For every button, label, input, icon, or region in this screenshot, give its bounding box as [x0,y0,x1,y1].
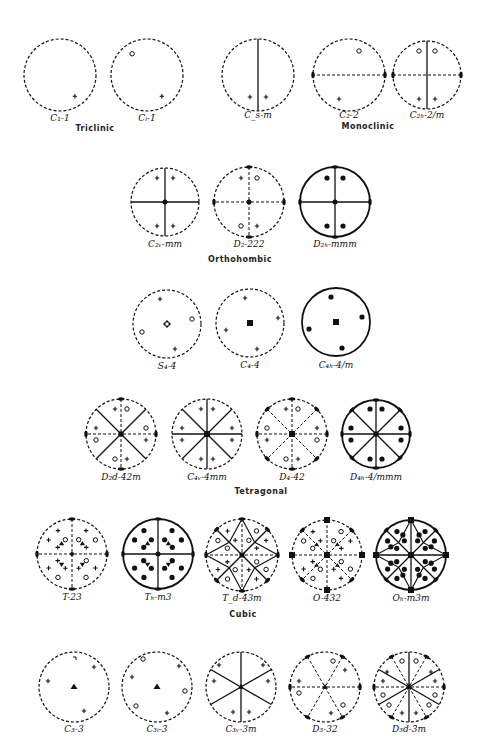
plus-pole-icon [94,426,98,430]
filled-circle-pole-icon [132,565,137,570]
filled-circle-pole-icon [415,538,420,543]
fourfold-axis-icon [119,432,124,437]
filled-circle-pole-icon [306,326,311,331]
plus-pole-icon [339,576,343,580]
plus-pole-icon [417,97,421,101]
filled-circle-pole-icon [417,573,422,578]
filled-circle-pole-icon [170,545,175,550]
twofold-axis-icon [212,199,215,205]
fourbar-axis-inner [166,323,169,326]
center-axis-icon [156,552,161,557]
threefold-axis-icon [59,541,64,545]
filled-circle-pole-icon [402,567,407,572]
plus-pole-icon [92,665,96,669]
open-circle-pole-icon [254,529,258,533]
threefold-axis-icon [322,684,328,689]
stereogram-d2d [84,397,157,470]
twofold-axis-icon [84,431,87,437]
fourfold-axis-icon [204,431,210,437]
plus-pole-icon [339,546,343,550]
filled-circle-pole-icon [348,425,353,430]
open-circle-pole-icon [144,426,148,430]
fourfold-axis-icon [333,319,339,325]
filled-circle-pole-icon [423,559,428,564]
group-label-oh: Oₕ-m3m [392,593,429,603]
twofold-axis-icon [105,551,108,557]
plus-pole-icon [301,567,305,571]
open-circle-pole-icon [381,693,385,697]
open-circle-pole-icon [84,575,88,579]
open-circle-pole-icon [400,659,404,663]
plus-pole-icon [113,407,117,411]
threefold-axis-icon [145,563,150,567]
open-circle-pole-icon [63,538,67,542]
open-circle-pole-icon [265,426,269,430]
fourfold-axis-icon [247,320,253,326]
stereogram-d4h [340,398,411,469]
open-circle-pole-icon [239,224,243,228]
open-circle-pole-icon [311,576,315,580]
plus-pole-icon [414,711,418,715]
threefold-axis-icon [80,541,85,545]
plus-pole-icon [331,567,335,571]
plus-pole-icon [158,297,162,301]
open-circle-pole-icon [93,538,97,542]
plus-pole-icon [155,224,159,228]
filled-circle-pole-icon [394,546,399,551]
twofold-axis-icon [191,551,194,557]
group-label-d3: D₃-32 [312,724,337,734]
twofold-axis-icon [388,654,395,660]
fourfold-axis-icon [373,552,379,558]
twofold-axis-icon [373,466,379,469]
twofold-axis-icon [282,199,285,205]
open-circle-pole-icon [140,330,144,334]
group-label-c4v: C₄ᵥ-4mm [187,472,227,482]
open-circle-pole-icon [417,49,421,53]
filled-circle-pole-icon [385,538,390,543]
system-label-orthorhombic: Orthohombic [208,255,272,264]
filled-circle-pole-icon [379,406,384,411]
plus-pole-icon [46,566,50,570]
plus-pole-icon [233,538,237,542]
fourfold-axis-icon [408,552,414,558]
plus-pole-icon [155,176,159,180]
plus-pole-icon [231,710,235,714]
plus-pole-icon [171,224,175,228]
open-circle-pole-icon [94,438,98,442]
twofold-axis-icon [304,654,311,660]
stereogram-oh [373,517,449,593]
plus-pole-icon [56,545,60,549]
filled-circle-pole-icon [149,566,154,571]
filled-circle-pole-icon [398,437,403,442]
plus-pole-icon [329,711,333,715]
stereogram-t [35,517,108,590]
open-circle-pole-icon [296,407,300,411]
open-circle-pole-icon [225,546,229,550]
filled-circle-pole-icon [162,537,167,542]
twofold-axis-icon [408,431,411,437]
plus-pole-icon [247,567,251,571]
open-circle-pole-icon [341,703,345,707]
open-circle-pole-icon [318,567,322,571]
twofold-axis-icon [69,587,75,590]
plus-pole-icon [266,679,270,683]
threefold-axis-icon [154,684,161,690]
stereogram-o [289,517,365,593]
filled-circle-pole-icon [379,456,384,461]
stereogram-c2 [311,39,386,111]
plus-pole-icon [225,560,229,564]
plus-pole-icon [381,679,385,683]
filled-circle-pole-icon [367,456,372,461]
filled-circle-pole-icon [422,529,427,534]
twofold-axis-icon [289,467,295,470]
plus-pole-icon [254,546,258,550]
twofold-axis-icon [155,517,161,520]
stereogram-c3i [122,652,192,722]
twofold-axis-icon [372,684,375,690]
twofold-axis-icon [118,397,124,400]
twofold-axis-icon [298,199,301,205]
stereogram-td [204,517,279,592]
filled-circle-pole-icon [340,175,345,180]
group-label-th: Tₕ-m3 [144,592,171,602]
twofold-axis-icon [423,714,430,720]
